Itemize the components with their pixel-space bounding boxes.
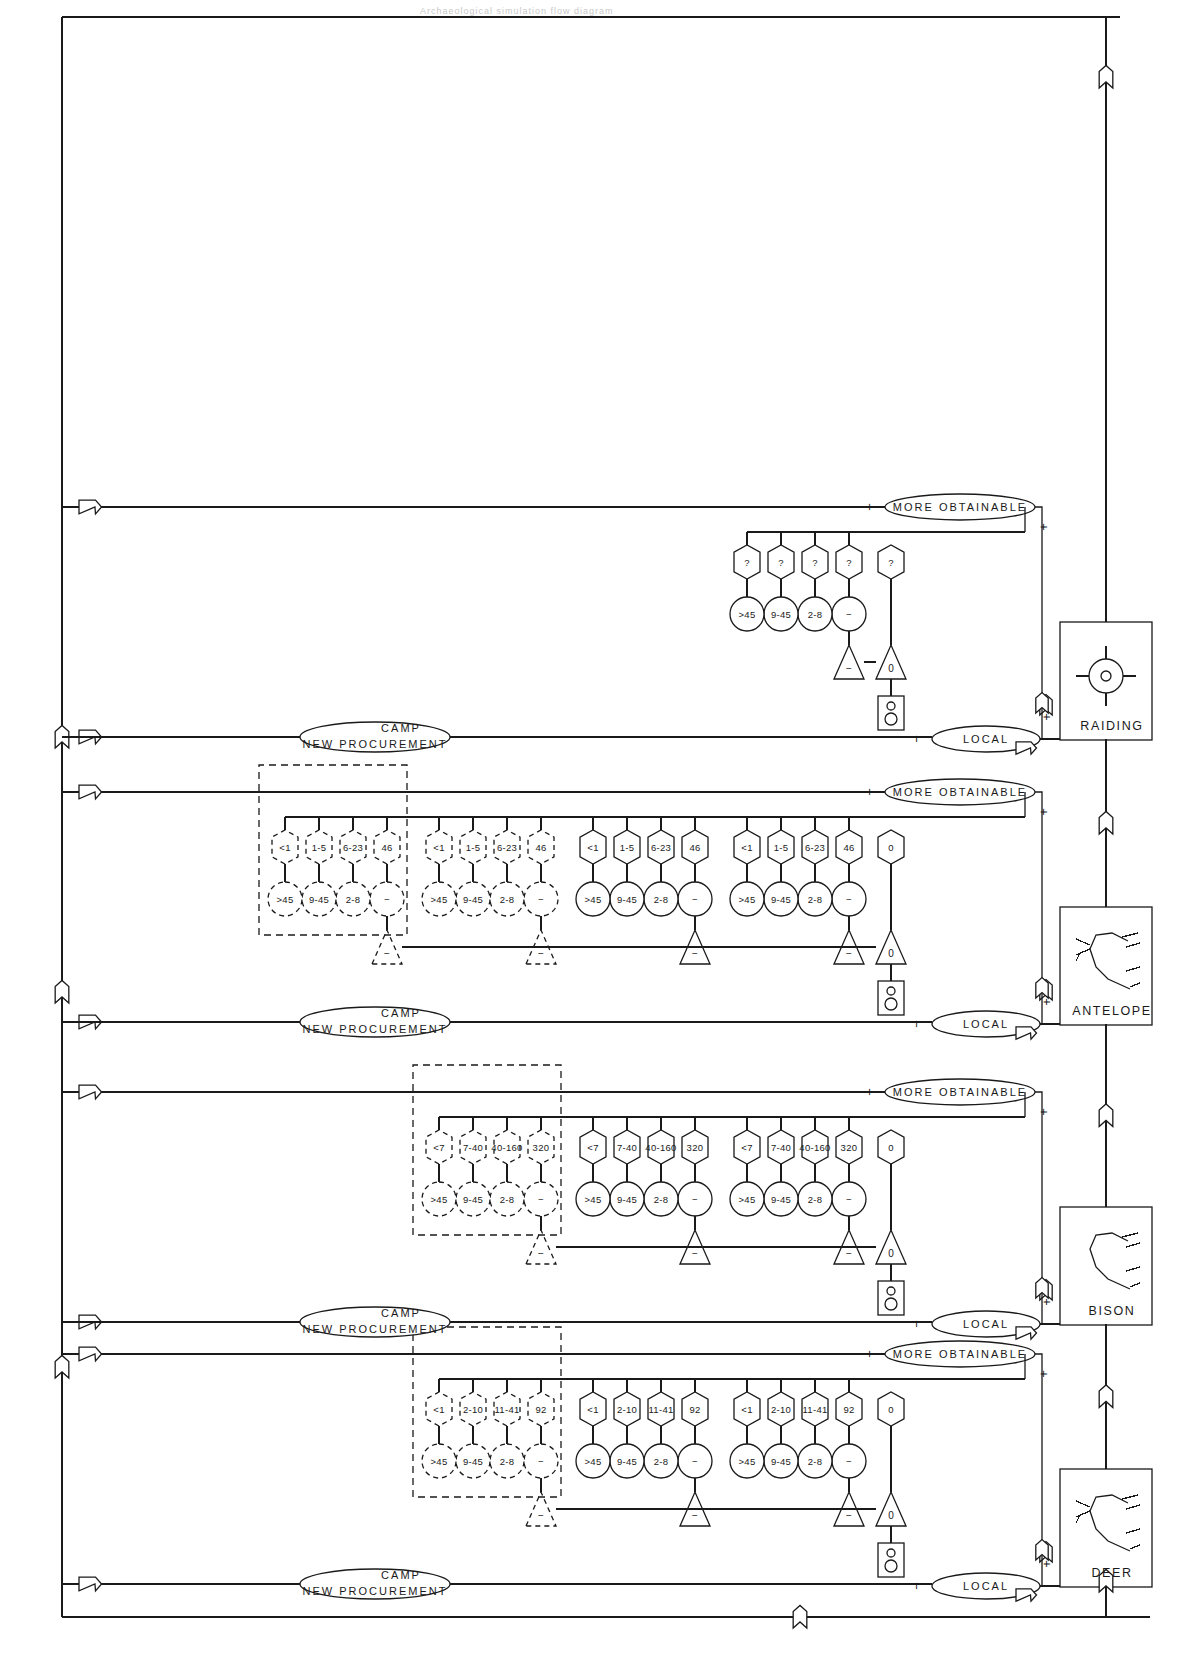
- branch-raiding-box-inflow-arrow: [1016, 742, 1037, 754]
- branch-raiding-camp-label-2: CAMP: [381, 722, 421, 734]
- branch-antelope-gate-zero-label: 0: [888, 948, 894, 959]
- branch-bison-age-circle-label-2-1: 9-45: [463, 1194, 483, 1205]
- branch-raiding-camp-label-1: NEW PROCUREMENT: [303, 738, 448, 750]
- branch-raiding-sum-gate-label-0: −: [846, 663, 852, 674]
- branch-bison-local-plus: +: [1039, 1298, 1054, 1306]
- branch-antelope-sum-gate-label-0: −: [846, 948, 852, 959]
- branch-deer-sum-circle-label-0: −: [846, 1456, 852, 1467]
- branch-antelope-animal-leg-3: [1126, 943, 1140, 947]
- branch-antelope-sum-circle-label-3: −: [384, 894, 390, 905]
- branch-bison-sum-hex-label-0: 320: [841, 1142, 858, 1153]
- branch-bison-count-hex-label-0-2: <7: [741, 1142, 752, 1153]
- branch-antelope-zero-hex-label: 0: [888, 842, 894, 853]
- branch-deer-count-hex-label-1-0: 11-41: [648, 1404, 673, 1415]
- branch-deer-more-bus-arrow: [79, 1347, 102, 1361]
- branch-raiding-local-plus: +: [1039, 713, 1054, 721]
- branch-antelope-count-hex-label-0-1: 1-5: [774, 842, 789, 853]
- branch-antelope-box-inflow-arrow: [1016, 1027, 1037, 1039]
- branch-bison-more-plus: +: [1036, 1108, 1051, 1116]
- branch-deer-more-plus: +: [1036, 1370, 1051, 1378]
- branch-antelope-local-plus: +: [1039, 998, 1054, 1006]
- branch-deer-sum-hex-label-2: 92: [535, 1404, 546, 1415]
- branch-antelope-age-circle-label-2-0: 2-8: [500, 894, 515, 905]
- branch-antelope-count-hex-label-0-0: 6-23: [805, 842, 825, 853]
- branch-raiding-zero-hex-label: ?: [888, 557, 894, 568]
- branch-raiding-age-circle-label-0-1: 9-45: [771, 609, 791, 620]
- branch-antelope-sum-gate-label-3: −: [384, 948, 390, 959]
- branch-bison-count-hex-label-1-0: 40-160: [645, 1142, 676, 1153]
- branch-antelope-count-hex-label-2-1: 1-5: [466, 842, 481, 853]
- branch-bison-more-bus-arrow: [79, 1085, 102, 1099]
- branch-bison-camp-label-2: CAMP: [381, 1307, 421, 1319]
- branch-bison-animal-leg-2: [1126, 1267, 1140, 1271]
- branch-bison-age-circle-label-0-0: 2-8: [808, 1194, 823, 1205]
- branch-deer-count-hex-label-0-0: 11-41: [802, 1404, 827, 1415]
- branch-raiding-raid-core: [1101, 671, 1111, 681]
- branch-deer-count-hex-label-2-2: <1: [433, 1404, 444, 1415]
- branch-raiding-count-hex-label-0-2: ?: [744, 557, 750, 568]
- branch-bison-age-circle-label-0-1: 9-45: [771, 1194, 791, 1205]
- branch-antelope-sum-hex-label-3: 46: [381, 842, 392, 853]
- branch-raiding-count-hex-label-0-0: ?: [812, 557, 818, 568]
- branch-deer-sum-gate-label-1: −: [692, 1510, 698, 1521]
- branch-antelope-age-circle-label-1-1: 9-45: [617, 894, 637, 905]
- branch-bison-sum-circle-label-0: −: [846, 1194, 852, 1205]
- branch-antelope-camp-label-1: NEW PROCUREMENT: [303, 1023, 448, 1035]
- branch-deer-antler-2: [1076, 1501, 1090, 1507]
- branch-deer-camp-bus-arrow: [79, 1577, 102, 1591]
- branch-deer-sum-circle-label-2: −: [538, 1456, 544, 1467]
- branch-deer-sum-circle-label-1: −: [692, 1456, 698, 1467]
- diagram-layers: DEERLOCAL−+NEW PROCUREMENTCAMPMORE OBTAI…: [0, 0, 1191, 1677]
- branch-bison-sum-gate-label-2: −: [538, 1248, 544, 1259]
- branch-deer-age-circle-label-0-0: 2-8: [808, 1456, 823, 1467]
- branch-deer-age-circle-label-1-2: >45: [584, 1456, 601, 1467]
- branch-bison-count-hex-label-2-2: <7: [433, 1142, 444, 1153]
- branch-deer-animal-leg-2: [1126, 1529, 1140, 1533]
- branch-bison-animal-leg-1: [1130, 1283, 1140, 1287]
- branch-antelope-sum-circle-label-2: −: [538, 894, 544, 905]
- branch-bison-age-circle-label-0-2: >45: [738, 1194, 755, 1205]
- branch-antelope-camp-label-2: CAMP: [381, 1007, 421, 1019]
- branch-deer-age-circle-label-2-0: 2-8: [500, 1456, 515, 1467]
- branch-antelope-age-circle-label-0-2: >45: [738, 894, 755, 905]
- branch-raiding-sensor-dial-1: [885, 713, 897, 725]
- branch-deer-count-hex-label-2-1: 2-10: [463, 1404, 483, 1415]
- branch-antelope-more-bus-arrow: [79, 785, 102, 799]
- branch-deer-sum-hex-label-1: 92: [689, 1404, 700, 1415]
- branch-antelope-age-circle-label-0-0: 2-8: [808, 894, 823, 905]
- branch-bison-age-circle-label-1-1: 9-45: [617, 1194, 637, 1205]
- branch-antelope-count-hex-label-1-1: 1-5: [620, 842, 635, 853]
- branch-antelope-count-hex-label-2-0: 6-23: [497, 842, 517, 853]
- branch-antelope-animal-label: ANTELOPE: [1072, 1004, 1152, 1018]
- branch-antelope-more-minus: −: [862, 788, 877, 796]
- branch-bison-sum-gate-label-0: −: [846, 1248, 852, 1259]
- branch-bison-count-hex-label-2-1: 7-40: [463, 1142, 483, 1153]
- branch-antelope-sum-gate-label-1: −: [692, 948, 698, 959]
- branch-antelope-sum-hex-label-2: 46: [535, 842, 546, 853]
- branch-antelope-antler-1: [1076, 949, 1090, 955]
- branch-deer-age-circle-label-1-1: 9-45: [617, 1456, 637, 1467]
- branch-antelope-sensor-dial-2: [887, 987, 895, 995]
- branch-raiding-more-label: MORE OBTAINABLE: [893, 501, 1027, 513]
- branch-raiding-sum-hex-label-0: ?: [846, 557, 852, 568]
- branch-deer-animal-pictogram: [1090, 1495, 1130, 1551]
- branch-bison-age-circle-label-1-2: >45: [584, 1194, 601, 1205]
- branch-bison-animal-label: BISON: [1089, 1304, 1136, 1318]
- branch-antelope-sum-circle-label-0: −: [846, 894, 852, 905]
- branch-deer-sensor-dial-1: [885, 1560, 897, 1572]
- branch-raiding-sum-circle-label-0: −: [846, 609, 852, 620]
- branch-deer-local-label: LOCAL: [963, 1580, 1009, 1592]
- branch-antelope-local-minus: −: [909, 1020, 924, 1028]
- branch-bison-sensor-dial-2: [887, 1287, 895, 1295]
- branch-deer-age-circle-label-0-2: >45: [738, 1456, 755, 1467]
- branch-deer-age-circle-label-0-1: 9-45: [771, 1456, 791, 1467]
- branch-deer-count-hex-label-0-1: 2-10: [771, 1404, 791, 1415]
- branch-bison-animal-leg-4: [1122, 1233, 1138, 1237]
- branch-antelope-age-circle-label-2-1: 9-45: [463, 894, 483, 905]
- branch-antelope-antler-2: [1076, 939, 1090, 945]
- left-return-arrow: [793, 1605, 807, 1628]
- branch-antelope-sum-gate-label-2: −: [538, 948, 544, 959]
- branch-antelope-age-circle-label-0-1: 9-45: [771, 894, 791, 905]
- branch-deer-animal-leg-4: [1122, 1495, 1138, 1499]
- branch-deer-zero-hex-label: 0: [888, 1404, 894, 1415]
